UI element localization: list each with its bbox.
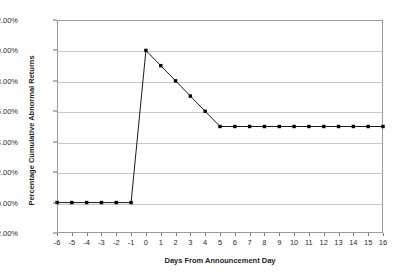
x-tick-label: 14 — [349, 238, 357, 247]
x-tick-mark — [264, 233, 265, 236]
x-tick-mark — [190, 233, 191, 236]
y-tick-mark — [53, 172, 57, 173]
x-tick-label: 13 — [334, 238, 342, 247]
x-tick-label: 5 — [218, 238, 222, 247]
x-tick-mark — [57, 233, 58, 236]
chart-title: Panel B: Case 2 — [14, 0, 92, 2]
x-tick-mark — [309, 233, 310, 236]
y-tick-mark — [53, 141, 57, 142]
x-tick-label: 0 — [144, 238, 148, 247]
y-tick-label: 6.00% — [0, 107, 18, 116]
x-tick-mark — [235, 233, 236, 236]
x-tick-label: -6 — [54, 238, 61, 247]
x-tick-mark — [353, 233, 354, 236]
x-tick-mark — [383, 233, 384, 236]
gridline-horizontal — [58, 143, 382, 144]
gridline-horizontal — [58, 82, 382, 83]
x-tick-mark — [205, 233, 206, 236]
plot-area — [57, 20, 383, 233]
x-tick-mark — [368, 233, 369, 236]
x-tick-mark — [294, 233, 295, 236]
y-tick-label: 10.00% — [0, 46, 18, 55]
gridline-horizontal — [58, 112, 382, 113]
x-tick-mark — [250, 233, 251, 236]
y-tick-label: 8.00% — [0, 76, 18, 85]
chart-figure: Panel B: Case 2 Percentage Cumulative Ab… — [0, 0, 405, 279]
x-tick-mark — [101, 233, 102, 236]
x-tick-label: 8 — [262, 238, 266, 247]
y-tick-label: -2.00% — [0, 229, 18, 238]
x-tick-mark — [87, 233, 88, 236]
x-tick-label: -2 — [113, 238, 120, 247]
x-tick-mark — [72, 233, 73, 236]
y-tick-mark — [53, 80, 57, 81]
x-tick-mark — [220, 233, 221, 236]
y-tick-mark — [53, 202, 57, 203]
x-tick-mark — [116, 233, 117, 236]
x-tick-mark — [146, 233, 147, 236]
gridline-horizontal — [58, 51, 382, 52]
x-tick-mark — [176, 233, 177, 236]
x-tick-label: -3 — [98, 238, 105, 247]
y-tick-mark — [53, 50, 57, 51]
x-tick-label: 10 — [290, 238, 298, 247]
x-tick-label: 11 — [305, 238, 313, 247]
x-tick-label: 7 — [248, 238, 252, 247]
x-tick-mark — [324, 233, 325, 236]
x-tick-label: -1 — [128, 238, 135, 247]
x-tick-mark — [339, 233, 340, 236]
x-tick-label: 12 — [320, 238, 328, 247]
x-tick-label: -5 — [68, 238, 75, 247]
x-tick-label: 1 — [159, 238, 163, 247]
x-axis-title: Days From Announcement Day — [57, 256, 383, 265]
x-tick-mark — [161, 233, 162, 236]
y-tick-label: 0.00% — [0, 198, 18, 207]
y-tick-label: 4.00% — [0, 137, 18, 146]
y-tick-mark — [53, 20, 57, 21]
x-tick-mark — [131, 233, 132, 236]
y-tick-label: 2.00% — [0, 168, 18, 177]
x-tick-label: 16 — [379, 238, 387, 247]
x-tick-label: 3 — [188, 238, 192, 247]
x-tick-label: 9 — [277, 238, 281, 247]
gridline-horizontal — [58, 173, 382, 174]
x-tick-mark — [279, 233, 280, 236]
x-tick-label: 2 — [173, 238, 177, 247]
gridline-horizontal — [58, 204, 382, 205]
x-tick-label: 6 — [233, 238, 237, 247]
y-tick-mark — [53, 111, 57, 112]
x-tick-label: 15 — [364, 238, 372, 247]
x-tick-label: -4 — [83, 238, 90, 247]
x-tick-label: 4 — [203, 238, 207, 247]
y-axis-title: Percentage Cumulative Abnormal Returns — [27, 36, 36, 226]
y-tick-label: 12.00% — [0, 16, 18, 25]
